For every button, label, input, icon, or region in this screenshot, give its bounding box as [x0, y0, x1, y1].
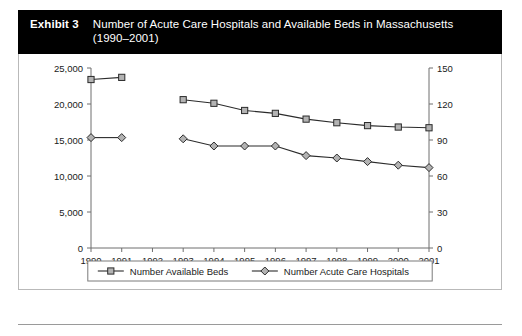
- data-point-marker: [426, 125, 432, 131]
- data-point-marker: [364, 158, 372, 166]
- legend-label: Number Acute Care Hospitals: [284, 266, 409, 277]
- right-y-axis: 0306090120150: [429, 63, 453, 254]
- data-point-marker: [179, 135, 187, 143]
- legend-label: Number Available Beds: [130, 266, 229, 277]
- data-point-marker: [394, 161, 402, 169]
- left-y-axis: 05,00010,00015,00020,00025,000: [54, 63, 91, 254]
- data-point-marker: [272, 110, 278, 116]
- data-point-marker: [241, 142, 249, 150]
- left-axis-tick-label: 20,000: [54, 99, 83, 110]
- exhibit-number-label: Exhibit 3: [30, 17, 93, 31]
- left-axis-tick-label: 15,000: [54, 135, 83, 146]
- left-axis-tick-label: 10,000: [54, 171, 83, 182]
- exhibit-title-text: Number of Acute Care Hospitals and Avail…: [93, 17, 490, 45]
- data-point-marker: [211, 100, 217, 106]
- exhibit-container: Exhibit 3 Number of Acute Care Hospitals…: [18, 10, 502, 290]
- data-point-marker: [242, 107, 248, 113]
- left-axis-tick-label: 25,000: [54, 63, 83, 74]
- data-point-marker: [364, 123, 370, 129]
- data-point-marker: [302, 152, 310, 160]
- data-point-marker: [395, 124, 401, 130]
- left-axis-tick-label: 5,000: [59, 207, 83, 218]
- exhibit-title-bar: Exhibit 3 Number of Acute Care Hospitals…: [18, 10, 502, 54]
- right-axis-tick-label: 120: [437, 99, 453, 110]
- series-line: [183, 100, 429, 128]
- data-point-marker: [88, 76, 94, 82]
- data-point-marker: [118, 134, 126, 142]
- data-point-marker: [303, 116, 309, 122]
- series-line: [91, 77, 122, 79]
- series-plot-area: [87, 74, 433, 171]
- data-point-marker: [334, 120, 340, 126]
- right-axis-tick-label: 150: [437, 63, 453, 74]
- left-axis-tick-label: 0: [78, 243, 83, 254]
- right-axis-tick-label: 0: [437, 243, 442, 254]
- data-point-marker: [271, 142, 279, 150]
- legend-marker: [108, 268, 114, 274]
- data-point-marker: [180, 97, 186, 103]
- data-point-marker: [333, 154, 341, 162]
- chart-legend: Number Available BedsNumber Acute Care H…: [88, 261, 432, 281]
- data-point-marker: [210, 142, 218, 150]
- right-axis-tick-label: 60: [437, 171, 448, 182]
- dual-axis-line-chart: 05,00010,00015,00020,00025,000 030609012…: [19, 54, 501, 288]
- right-axis-tick-label: 90: [437, 135, 448, 146]
- data-point-marker: [425, 164, 433, 172]
- data-point-marker: [119, 74, 125, 80]
- chart-panel: 05,00010,00015,00020,00025,000 030609012…: [18, 54, 502, 290]
- right-axis-tick-label: 30: [437, 207, 448, 218]
- footer-divider: [18, 324, 502, 325]
